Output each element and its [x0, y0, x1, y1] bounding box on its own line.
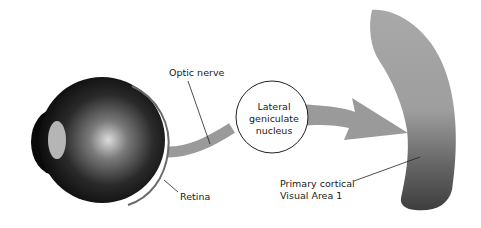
- lgn-label-line3: nucleus: [256, 125, 293, 136]
- retina-label: Retina: [180, 191, 210, 202]
- optic-radiation-arrow: [300, 98, 408, 140]
- optic-nerve-label: Optic nerve: [169, 67, 225, 78]
- v1-label-line2: Visual Area 1: [280, 190, 342, 201]
- lens: [48, 121, 66, 159]
- eye: [31, 77, 169, 205]
- visual-cortex-shape: [370, 10, 456, 210]
- optic-nerve-pointer: [188, 81, 210, 144]
- lgn-label-line2: geniculate: [249, 113, 299, 124]
- lgn-label-line1: Lateral: [257, 101, 290, 112]
- optic-nerve-pathway: [168, 128, 232, 152]
- retina-pointer: [164, 180, 178, 192]
- visual-pathway-diagram: Lateral geniculate nucleus Optic nerve R…: [0, 0, 481, 228]
- v1-label-line1: Primary cortical: [280, 178, 355, 189]
